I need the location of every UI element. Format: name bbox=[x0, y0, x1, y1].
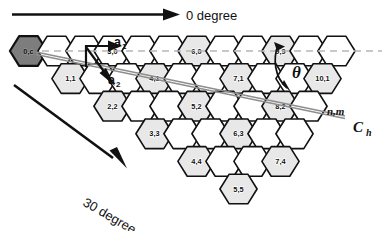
theta-symbol-label: θ bbox=[292, 63, 301, 82]
chirality-map-figure: 0,c3,06,09,91,14,17,110,12,25,28,23,36,3… bbox=[0, 0, 390, 231]
annotation-layer: 0 degree 30 degree a 1 a 2 θ n,m C h bbox=[0, 0, 390, 231]
lattice-vector-a1-label: a bbox=[114, 35, 122, 49]
generic-index-label: n,m bbox=[327, 105, 345, 117]
chiral-vector-line bbox=[36, 52, 345, 119]
zero-degree-axis-arrow bbox=[12, 9, 180, 21]
theta-angle-arc bbox=[274, 42, 291, 92]
lattice-vector-a1-subscript: 1 bbox=[122, 42, 127, 51]
chiral-vector-label: C bbox=[353, 119, 364, 135]
thirty-degree-axis-arrow bbox=[14, 85, 127, 169]
chiral-vector-subscript: h bbox=[366, 127, 372, 138]
lattice-vector-a2-subscript: 2 bbox=[116, 80, 121, 89]
thirty-degree-label: 30 degree bbox=[81, 195, 139, 231]
lattice-vector-a2-label: a bbox=[108, 73, 116, 87]
zero-degree-label: 0 degree bbox=[186, 8, 237, 23]
